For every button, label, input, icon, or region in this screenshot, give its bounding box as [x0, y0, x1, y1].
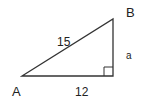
vertex-label-b: B [126, 5, 135, 20]
vertex-label-a: A [12, 84, 21, 99]
hypotenuse-length-label: 15 [57, 35, 71, 49]
right-angle-marker [104, 67, 113, 76]
right-triangle-diagram: B A 15 12 a [0, 0, 141, 106]
base-length-label: 12 [75, 85, 89, 99]
vertical-side-label: a [126, 50, 132, 61]
